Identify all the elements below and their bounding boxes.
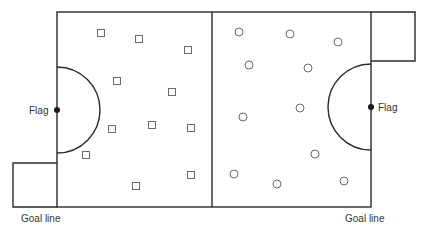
team-circles-group bbox=[230, 28, 348, 188]
square-player-marker bbox=[136, 36, 143, 43]
circle-player-marker bbox=[334, 38, 342, 46]
right-goal-box bbox=[371, 12, 415, 61]
right-flag-icon bbox=[368, 104, 374, 110]
square-player-marker bbox=[98, 30, 105, 37]
left-goal-line-label: Goal line bbox=[21, 213, 61, 224]
left-goal-box bbox=[13, 163, 57, 207]
circle-player-marker bbox=[286, 30, 294, 38]
field-boundary bbox=[57, 12, 371, 207]
left-arc bbox=[57, 67, 100, 153]
square-player-marker bbox=[109, 126, 116, 133]
circle-player-marker bbox=[304, 64, 312, 72]
square-player-marker bbox=[149, 122, 156, 129]
circle-player-marker bbox=[239, 113, 247, 121]
circle-player-marker bbox=[296, 104, 304, 112]
square-player-marker bbox=[169, 89, 176, 96]
circle-player-marker bbox=[235, 28, 243, 36]
square-player-marker bbox=[185, 47, 192, 54]
left-flag-label: Flag bbox=[29, 105, 48, 116]
square-player-marker bbox=[188, 125, 195, 132]
square-player-marker bbox=[114, 78, 121, 85]
right-arc bbox=[328, 64, 371, 150]
field-diagram: Flag Flag Goal line Goal line bbox=[0, 0, 427, 236]
circle-player-marker bbox=[273, 180, 281, 188]
square-player-marker bbox=[133, 183, 140, 190]
right-flag-label: Flag bbox=[378, 102, 397, 113]
right-goal-line-label: Goal line bbox=[345, 213, 385, 224]
circle-player-marker bbox=[245, 61, 253, 69]
circle-player-marker bbox=[230, 170, 238, 178]
square-player-marker bbox=[188, 172, 195, 179]
square-player-marker bbox=[83, 152, 90, 159]
circle-player-marker bbox=[311, 150, 319, 158]
circle-player-marker bbox=[340, 177, 348, 185]
left-flag-icon bbox=[54, 107, 60, 113]
